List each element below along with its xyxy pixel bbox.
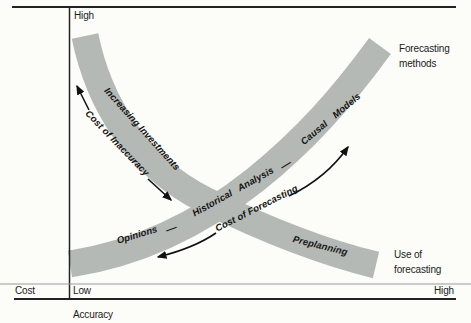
forecasting-tradeoff-diagram: High Cost Low High Accuracy Forecasting …: [0, 0, 471, 323]
x-axis-title: Accuracy: [73, 309, 113, 320]
use-of-forecasting-label: Use of forecasting: [394, 248, 458, 277]
y-axis-high-tick: High: [74, 10, 94, 21]
y-axis-title: Cost: [15, 285, 35, 296]
x-axis-low-tick: Low: [73, 285, 91, 296]
forecasting-methods-band: [70, 46, 380, 264]
forecasting-methods-label: Forecasting methods: [399, 42, 463, 71]
x-axis-high-tick: High: [434, 285, 454, 296]
